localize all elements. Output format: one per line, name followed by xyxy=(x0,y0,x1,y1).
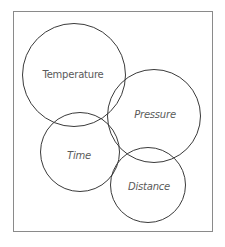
label-pressure: Pressure xyxy=(134,109,176,120)
label-temperature: Temperature xyxy=(42,69,103,80)
label-time: Time xyxy=(67,150,91,161)
venn-diagram: Temperature Pressure Time Distance xyxy=(0,0,225,247)
label-distance: Distance xyxy=(128,181,170,192)
